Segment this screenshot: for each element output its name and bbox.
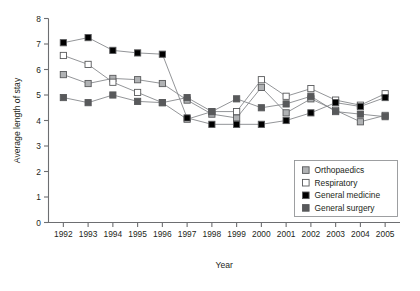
data-point [60,94,66,100]
data-point [135,98,141,104]
data-point [234,108,240,114]
legend-item-general-medicine[interactable]: General medicine [303,190,381,200]
y-tick-label-4: 4 [36,116,41,126]
x-tick-label-2003: 2003 [326,229,345,239]
y-axis-title: Average length of stay [12,77,22,163]
x-tick-label-1992: 1992 [54,229,73,239]
chart-container: 0123456781992199319941995199619971998199… [0,0,420,291]
data-point [135,50,141,56]
data-point [60,40,66,46]
data-point [357,103,363,109]
data-point [184,115,190,121]
line-chart: 0123456781992199319941995199619971998199… [0,0,420,291]
x-tick-label-1995: 1995 [128,229,147,239]
y-tick-label-6: 6 [36,65,41,75]
data-point [382,114,388,120]
y-tick-label-3: 3 [36,141,41,151]
x-tick-label-2005: 2005 [376,229,395,239]
data-point [135,77,141,83]
data-point [382,94,388,100]
data-point [110,92,116,98]
data-point [159,100,165,106]
legend-swatch [303,192,310,199]
series-group [60,35,388,128]
data-point [60,72,66,78]
data-point [159,51,165,57]
legend-swatch [303,167,310,174]
data-point [308,86,314,92]
data-point [234,115,240,121]
data-point [258,121,264,127]
chart-legend: OrthopaedicsRespiratoryGeneral medicineG… [295,161,398,217]
x-tick-label-2001: 2001 [277,229,296,239]
data-point [357,111,363,117]
x-tick-label-2000: 2000 [252,229,271,239]
data-point [258,84,264,90]
data-point [85,61,91,67]
x-tick-label-2004: 2004 [351,229,370,239]
legend-label: General surgery [315,203,376,213]
y-tick-label-5: 5 [36,90,41,100]
data-point [85,35,91,41]
data-point [60,52,66,58]
data-point [209,108,215,114]
data-point [308,93,314,99]
data-point [234,96,240,102]
legend-swatch [303,179,310,186]
y-tick-label-0: 0 [36,218,41,228]
x-tick-label-1998: 1998 [203,229,222,239]
data-point [283,101,289,107]
data-point [283,110,289,116]
legend-label: Respiratory [315,178,359,188]
x-tick-label-1993: 1993 [79,229,98,239]
data-point [135,89,141,95]
data-point [333,100,339,106]
x-tick-label-1994: 1994 [104,229,123,239]
data-point [85,100,91,106]
y-tick-label-2: 2 [36,167,41,177]
data-point [283,117,289,123]
data-point [159,80,165,86]
data-point [283,93,289,99]
data-point [258,105,264,111]
x-tick-label-1996: 1996 [153,229,172,239]
x-tick-label-1997: 1997 [178,229,197,239]
data-point [209,121,215,127]
data-point [234,121,240,127]
data-point [357,119,363,125]
x-tick-label-1999: 1999 [227,229,246,239]
data-point [110,47,116,53]
legend-label: Orthopaedics [315,165,365,175]
data-point [85,80,91,86]
data-point [308,110,314,116]
y-tick-label-8: 8 [36,14,41,24]
y-tick-label-1: 1 [36,192,41,202]
x-tick-label-2002: 2002 [302,229,321,239]
x-axis-title: Year [216,260,234,270]
legend-swatch [303,205,310,212]
data-point [333,108,339,114]
data-point [184,94,190,100]
y-tick-label-7: 7 [36,39,41,49]
legend-label: General medicine [315,190,381,200]
data-point [258,77,264,83]
axis-titles: Average length of stayYear [12,77,234,270]
data-point [110,79,116,85]
